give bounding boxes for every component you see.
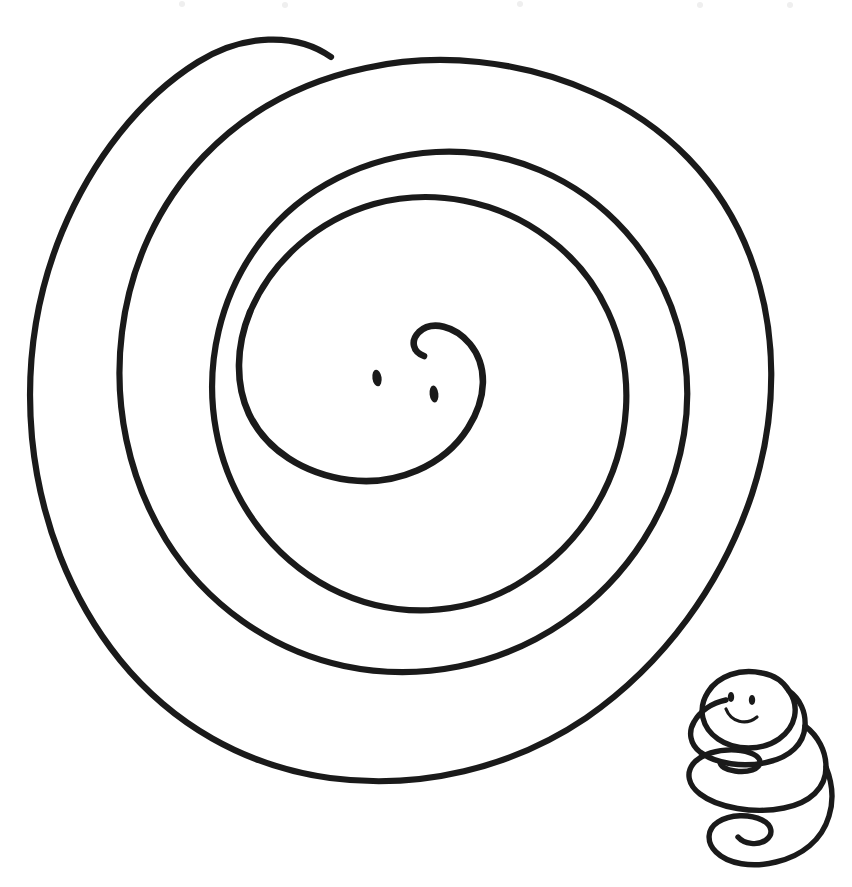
small-snake-right-eye: [749, 695, 755, 705]
drawing-canvas: [0, 0, 852, 887]
small-snake-left-eye: [728, 692, 734, 702]
illustration-svg: [0, 0, 852, 887]
